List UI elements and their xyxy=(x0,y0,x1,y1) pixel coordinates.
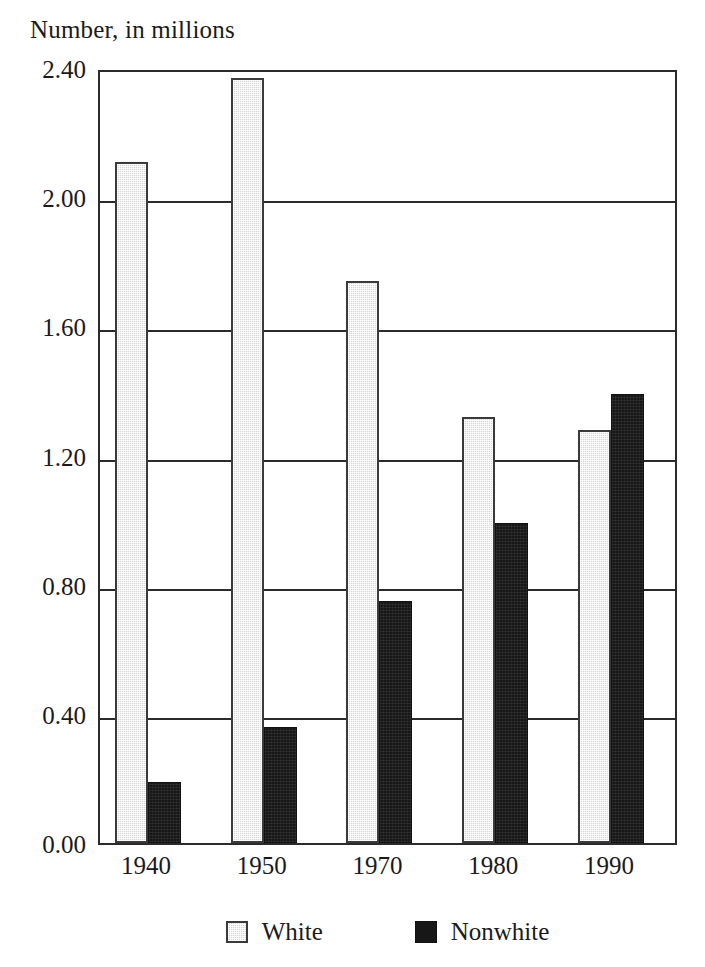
bar-nonwhite-1950 xyxy=(264,727,297,843)
bar-nonwhite-1970 xyxy=(379,601,412,843)
bar-nonwhite-1990 xyxy=(611,394,644,843)
chart-legend: WhiteNonwhite xyxy=(98,912,677,952)
bar-group xyxy=(447,72,563,843)
bar-white-1970 xyxy=(346,281,379,843)
legend-item-nonwhite[interactable]: Nonwhite xyxy=(415,918,550,946)
bar-white-1950 xyxy=(231,78,264,843)
legend-label: White xyxy=(262,918,323,946)
y-tick-label: 1.60 xyxy=(42,314,86,342)
plot-area xyxy=(98,70,677,845)
bar-white-1980 xyxy=(462,417,495,843)
bar-group xyxy=(216,72,332,843)
bar-group xyxy=(100,72,216,843)
bar-white-1940 xyxy=(115,162,148,843)
bar-group xyxy=(332,72,448,843)
legend-swatch-nonwhite-icon xyxy=(415,921,437,943)
y-axis-tick-labels: 0.000.400.801.201.602.002.40 xyxy=(0,70,86,845)
x-axis-tick-labels: 19401950197019801990 xyxy=(98,852,677,892)
bar-nonwhite-1980 xyxy=(495,523,528,843)
page-title: Number, in millions xyxy=(30,16,235,44)
y-tick-label: 0.00 xyxy=(42,831,86,859)
x-tick-label: 1950 xyxy=(237,852,287,880)
legend-swatch-white-icon xyxy=(226,921,248,943)
bar-white-1990 xyxy=(578,430,611,843)
x-tick-label: 1940 xyxy=(121,852,171,880)
bar-group xyxy=(563,72,679,843)
y-tick-label: 1.20 xyxy=(42,444,86,472)
x-tick-label: 1970 xyxy=(353,852,403,880)
legend-label: Nonwhite xyxy=(451,918,550,946)
x-tick-label: 1980 xyxy=(468,852,518,880)
bar-nonwhite-1940 xyxy=(148,782,181,843)
y-tick-label: 2.40 xyxy=(42,56,86,84)
y-tick-label: 2.00 xyxy=(42,185,86,213)
y-tick-label: 0.40 xyxy=(42,702,86,730)
x-tick-label: 1990 xyxy=(584,852,634,880)
y-tick-label: 0.80 xyxy=(42,573,86,601)
legend-item-white[interactable]: White xyxy=(226,918,323,946)
